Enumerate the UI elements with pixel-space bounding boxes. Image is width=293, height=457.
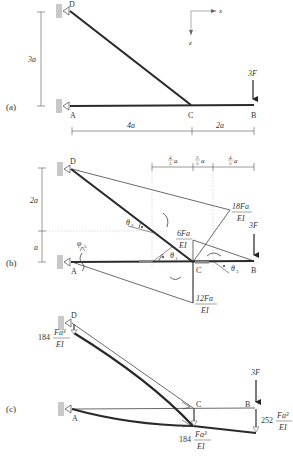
node-C-label-c: C (196, 400, 201, 409)
svg-text:3: 3 (196, 161, 199, 166)
height-dim-2a: 2a (30, 196, 38, 205)
node-B-label-c: B (245, 400, 250, 409)
panel-b: (b) 2a a 4 3 a 2 3 a 4 3 (6, 155, 258, 315)
panel-b-label: (b) (6, 258, 17, 268)
moment-diagram-DC (72, 169, 230, 262)
deformed-member-AB (72, 409, 256, 433)
svg-text:252: 252 (261, 416, 273, 425)
svg-text:184: 184 (38, 333, 50, 342)
svg-text:3: 3 (169, 161, 172, 166)
node-D-label-b: D (70, 157, 76, 166)
svg-text:Fa³: Fa³ (276, 411, 289, 420)
node-D-label: D (69, 0, 75, 9)
svg-text:φ: φ (77, 239, 82, 248)
node-A-label-c: A (72, 414, 78, 423)
svg-text:Fa³: Fa³ (53, 328, 66, 337)
member-DC (70, 11, 191, 105)
svg-text:184: 184 (179, 435, 191, 444)
span-AC-dim: 4a (127, 121, 135, 130)
height-dim-3a: 3a (27, 55, 36, 64)
height-dim-a: a (34, 243, 38, 252)
svg-text:EI: EI (200, 306, 209, 315)
svg-text:18Fa: 18Fa (232, 202, 249, 211)
deflection-label-D: 184 Fa³ EI (38, 328, 70, 349)
dim-frac-3: 4 3 a (228, 155, 238, 166)
node-A-label-b: A (71, 267, 77, 276)
moment-diagram-CB (193, 240, 254, 262)
svg-text:EI: EI (196, 442, 205, 451)
deflection-label-C: 184 Fa³ EI (179, 430, 211, 451)
moment-label-18Fa: 18Fa EI (232, 202, 252, 223)
moment-label-12Fa: 12Fa EI (195, 294, 217, 315)
dim-frac-1: 4 3 a (168, 155, 178, 166)
moment-diagram-AC (72, 262, 193, 303)
moment-label-6Fa: 6Fa EI (176, 229, 192, 250)
beam-frame-diagram: (a) x z 3a D A C B 3F (0, 0, 293, 457)
pin-support-D (56, 4, 69, 18)
node-A-label: A (70, 111, 76, 120)
svg-text:Fa³: Fa³ (194, 430, 207, 439)
svg-text:4: 4 (229, 155, 232, 160)
panel-c-label: (c) (6, 404, 16, 414)
panel-a-label: (a) (6, 102, 16, 112)
span-CB-dim: 2a (216, 121, 224, 130)
pin-support-A-c (58, 402, 71, 416)
load-3F-c: 3F (250, 368, 260, 377)
z-axis-label: z (188, 39, 192, 47)
displacement-arrow-B (253, 409, 259, 432)
svg-text:2: 2 (196, 155, 199, 160)
svg-text:θ: θ (170, 251, 174, 260)
panel-c: (c) D (6, 311, 292, 451)
pin-support-A (56, 99, 69, 113)
svg-text:12Fa: 12Fa (196, 294, 213, 303)
panel-a: (a) x z 3a D A C B 3F (6, 0, 257, 135)
x-axis-label: x (218, 7, 223, 15)
node-B-label-b: B (251, 266, 256, 275)
load-3F-a: 3F (247, 69, 257, 78)
svg-text:θ: θ (231, 264, 235, 273)
svg-text:1: 1 (175, 256, 178, 261)
svg-text:3: 3 (236, 269, 239, 274)
deformed-member-DC (74, 333, 193, 426)
node-D-label-c: D (71, 311, 77, 320)
pin-support-A-b (57, 255, 70, 269)
svg-text:EI: EI (236, 214, 245, 223)
svg-text:3: 3 (229, 161, 232, 166)
node-C-label-b: C (196, 266, 201, 275)
load-3F-b: 3F (248, 221, 258, 230)
member-DC-b (71, 169, 193, 262)
svg-text:A: A (83, 244, 87, 249)
member-AB (70, 105, 254, 106)
svg-text:4: 4 (169, 155, 172, 160)
svg-text:6Fa: 6Fa (177, 229, 190, 238)
node-C-label: C (188, 111, 193, 120)
deflection-label-B: 252 Fa³ EI (261, 411, 292, 432)
member-AB-b (71, 261, 254, 262)
angle-theta1: θ 1 (152, 247, 178, 262)
angle-theta3: θ 3 (214, 262, 239, 274)
svg-text:a: a (234, 157, 238, 165)
svg-text:EI: EI (278, 423, 287, 432)
svg-text:EI: EI (55, 340, 64, 349)
svg-text:a: a (174, 157, 178, 165)
svg-text:a: a (201, 157, 205, 165)
svg-text:EI: EI (178, 241, 187, 250)
svg-text:θ: θ (126, 218, 130, 227)
coordinate-axes: x z (188, 7, 223, 47)
pin-support-D-b (57, 162, 70, 176)
node-B-label: B (251, 111, 256, 120)
dim-frac-2: 2 3 a (195, 155, 205, 166)
